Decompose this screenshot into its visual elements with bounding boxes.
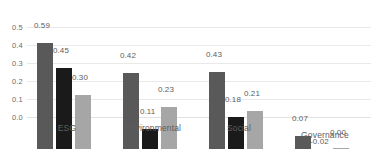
bar-value-label: 0.18 xyxy=(225,96,241,104)
bar-value-label: 0.21 xyxy=(244,90,260,98)
bar-group-environmental: 0.42 0.11 0.23 Environmental xyxy=(118,0,188,149)
category-label-environmental: Environmental xyxy=(118,124,188,133)
bar-value-label: 0.23 xyxy=(158,86,174,94)
bar-rect xyxy=(75,95,91,149)
bar-value-label: 0.42 xyxy=(120,52,136,60)
bar-rect xyxy=(123,73,139,149)
y-axis: 0.5 0.4 0.3 0.2 0.1 0.0 xyxy=(0,0,27,149)
plot-area: 0.59 0.45 0.30 ESG 0.42 0.11 xyxy=(27,0,371,149)
bar-value-label: 0.07 xyxy=(292,115,308,123)
bar-rect xyxy=(228,117,244,149)
bar-chart: 0.5 0.4 0.3 0.2 0.1 0.0 0.59 0.45 0.30 E… xyxy=(0,0,391,149)
bar-value-label: 0.45 xyxy=(53,47,69,55)
y-tick-label-0.4: 0.4 xyxy=(12,42,23,50)
y-tick-label-0.0: 0.0 xyxy=(12,114,23,122)
bar-value-label: 0.43 xyxy=(206,51,222,59)
bar-value-label: 0.30 xyxy=(72,74,88,82)
category-label-governance: Governance xyxy=(283,131,367,140)
y-tick-label-0.5: 0.5 xyxy=(12,24,23,32)
y-tick-label-0.2: 0.2 xyxy=(12,78,23,86)
bar-rect xyxy=(37,43,53,149)
bar-group-governance: 0.07 -0.02 0.00 Governance xyxy=(290,0,360,149)
bar-group-social: 0.43 0.18 0.21 Social xyxy=(204,0,274,149)
y-tick-label-0.1: 0.1 xyxy=(12,96,23,104)
bar-group-esg: 0.59 0.45 0.30 ESG xyxy=(32,0,102,149)
bar-value-label: 0.59 xyxy=(34,22,50,30)
category-label-esg: ESG xyxy=(32,124,102,133)
bar-rect xyxy=(56,68,72,149)
category-label-social: Social xyxy=(204,124,274,133)
bar-rect xyxy=(333,148,349,149)
y-tick-label-0.3: 0.3 xyxy=(12,60,23,68)
bar-rect xyxy=(209,72,225,149)
bar-value-label: 0.11 xyxy=(140,108,155,116)
